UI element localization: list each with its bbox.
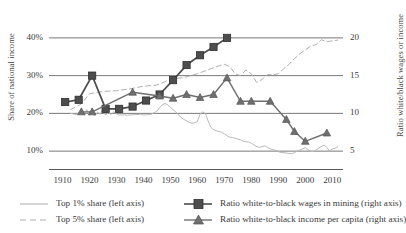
x-tick-2010: 2010 — [312, 175, 352, 185]
series-2-marker-9 — [183, 61, 190, 68]
series-2-marker-11 — [210, 43, 217, 50]
y-right-tick-15: 15 — [350, 70, 380, 80]
series-2-marker-0 — [62, 98, 69, 105]
chart-legend: Top 1% share (left axis) Top 5% share (l… — [14, 196, 386, 230]
series-2-marker-10 — [196, 52, 203, 59]
plot-area — [49, 19, 343, 170]
series-2-marker-2 — [89, 72, 96, 79]
series-3-marker-5 — [183, 91, 191, 98]
legend-key-dashed-line-icon — [18, 212, 52, 227]
series-line-1 — [71, 40, 338, 110]
series-2-marker-8 — [169, 77, 176, 84]
y-left-tick-40%: 40% — [13, 32, 43, 42]
y-right-tick-20: 20 — [350, 32, 380, 42]
legend-label-top1: Top 1% share (left axis) — [56, 196, 144, 211]
plot-svg — [49, 19, 343, 170]
series-2-marker-12 — [223, 34, 230, 41]
series-3-marker-8 — [223, 74, 231, 81]
legend-label-income-ratio: Ratio white-to-black income per capita (… — [220, 212, 406, 227]
y-right-tick-5: 5 — [350, 145, 380, 155]
y-axis-right-title: Ratio white/black wages or income — [395, 17, 405, 137]
series-2-marker-4 — [116, 105, 123, 112]
y-left-tick-10%: 10% — [13, 145, 43, 155]
legend-key-square-marker-icon — [182, 196, 216, 211]
legend-key-solid-line-icon — [18, 196, 52, 211]
y-right-tick-10: 10 — [350, 107, 380, 117]
series-2-marker-5 — [129, 103, 136, 110]
series-2-marker-1 — [75, 96, 82, 103]
y-left-tick-20%: 20% — [13, 107, 43, 117]
legend-label-mining-ratio: Ratio white-to-black wages in mining (ri… — [220, 196, 402, 211]
series-line-0 — [71, 104, 338, 154]
y-left-tick-30%: 30% — [13, 70, 43, 80]
series-3-marker-15 — [323, 129, 331, 136]
legend-key-triangle-marker-icon — [182, 212, 216, 227]
legend-label-top5: Top 5% share (left axis) — [56, 212, 144, 227]
series-2-marker-6 — [143, 97, 150, 104]
